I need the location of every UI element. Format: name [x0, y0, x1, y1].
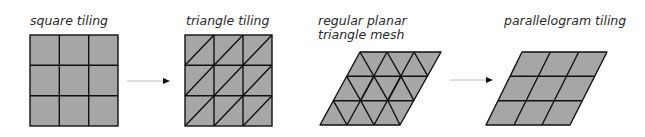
square-tiling: [30, 35, 118, 126]
triangle-mesh: [320, 52, 441, 125]
tiling-diagram: [0, 0, 645, 137]
parallelogram-tiling: [486, 52, 607, 125]
triangle-tiling: [185, 35, 272, 126]
arrow-right-icon: [450, 77, 493, 83]
arrow-right-icon: [127, 78, 170, 84]
